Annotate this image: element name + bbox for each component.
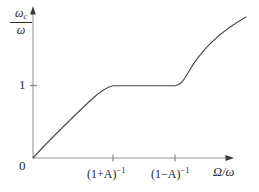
y-tick-label-1: 1 (19, 78, 26, 91)
x-tick-label-1-plus-A-inverse: (1+A)−1 (87, 166, 125, 180)
y-axis-label-denominator: ω (8, 24, 34, 36)
plot-canvas (0, 0, 259, 192)
y-axis-numerator-subscript: c (23, 12, 27, 21)
x-tick-label-1-base: (1−A) (151, 167, 180, 181)
x-axis-label: Ω/ω (213, 166, 234, 179)
x-tick-label-0-exponent: −1 (116, 165, 125, 175)
x-axis-arrowhead (226, 155, 235, 161)
figure-container: ωc ω 1 0 (1+A)−1 (1−A)−1 Ω/ω (0, 0, 259, 192)
x-tick-label-0-base: (1+A) (87, 167, 116, 181)
y-axis-label-numerator: ωc (8, 7, 34, 22)
x-tick-label-1-minus-A-inverse: (1−A)−1 (151, 166, 189, 180)
y-axis-label: ωc ω (8, 7, 34, 36)
data-curve (33, 17, 246, 158)
origin-label: 0 (19, 159, 26, 172)
x-tick-label-1-exponent: −1 (180, 165, 189, 175)
